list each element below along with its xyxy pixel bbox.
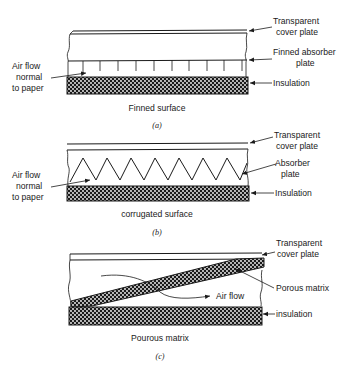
insulation-block	[67, 77, 248, 94]
panel-b-sublabel: (b)	[152, 228, 162, 237]
cover-leader-arrow	[249, 27, 272, 31]
right-break-edge	[247, 149, 248, 186]
absorber-label-line2: plate	[281, 169, 300, 179]
insulation-label: Insulation	[273, 78, 310, 88]
left-break-edge	[67, 150, 69, 186]
absorber-leader-arrow	[249, 59, 272, 60]
right-break-edge	[260, 270, 262, 306]
insulation-label: Insulation	[275, 188, 312, 198]
cover-plate	[70, 253, 262, 260]
panel-a-caption: Finned surface	[129, 103, 186, 113]
airflow-label-line2: normal	[16, 72, 42, 82]
corrugated-absorber-plate	[70, 158, 247, 182]
cover-label-line1: Transparent	[276, 238, 323, 248]
solar-air-heater-diagram: Transparent cover plate Finned absorber …	[0, 0, 347, 366]
cover-plate	[67, 143, 248, 150]
absorber-label-line2: plate	[296, 58, 315, 68]
insulation-label: insulation	[276, 309, 313, 319]
matrix-leader-arrow	[236, 269, 274, 288]
absorber-label-line1: Finned absorber	[273, 47, 336, 57]
cover-label-line2: cover plate	[276, 27, 318, 37]
fins	[83, 60, 242, 73]
insulation-block	[69, 307, 262, 325]
panel-a-finned-surface: Transparent cover plate Finned absorber …	[12, 16, 336, 130]
finned-absorber-plate	[68, 60, 247, 61]
panel-c-sublabel: (c)	[155, 352, 164, 361]
panel-a-sublabel: (a)	[152, 121, 162, 130]
cover-label-line1: Transparent	[274, 130, 321, 140]
airflow-label-line1: Air flow	[12, 170, 41, 180]
matrix-label: Porous matrix	[276, 283, 330, 293]
absorber-label-line1: Absorber	[275, 158, 310, 168]
cover-label-line2: cover plate	[276, 141, 318, 151]
cover-label-line1: Transparent	[273, 16, 320, 26]
cover-leader-arrow	[262, 252, 275, 255]
right-break-edge	[245, 33, 247, 77]
airflow-label: Air flow	[216, 291, 245, 301]
panel-c-caption: Pourous matrix	[131, 333, 189, 343]
left-break-edge	[68, 260, 71, 306]
panel-b-caption: corrugated surface	[121, 209, 193, 219]
cover-plate	[70, 30, 247, 34]
airflow-label-line1: Air flow	[12, 61, 41, 71]
panel-c-porous-matrix: Transparent cover plate Porous matrix Ai…	[68, 238, 329, 361]
left-break-edge	[67, 34, 70, 77]
insulation-block	[67, 186, 249, 201]
airflow-label-line2: normal	[16, 181, 42, 191]
cover-leader-arrow	[250, 137, 273, 143]
panel-b-corrugated-surface: Transparent cover plate Absorber plate I…	[12, 130, 321, 237]
cover-label-line2: cover plate	[277, 249, 319, 259]
airflow-label-line3: to paper	[12, 83, 44, 93]
airflow-label-line3: to paper	[12, 192, 44, 202]
